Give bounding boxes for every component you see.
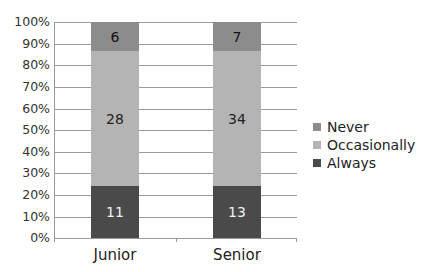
legend-item-occasionally: Occasionally xyxy=(313,136,415,154)
y-tick-label: 100% xyxy=(0,15,50,29)
legend-item-never: Never xyxy=(313,118,415,136)
y-axis xyxy=(54,22,55,239)
segment-always: 13 xyxy=(213,186,261,238)
segment-occasionally: 34 xyxy=(213,51,261,186)
x-tick-mark xyxy=(296,238,297,242)
y-tick-label: 40% xyxy=(0,145,50,159)
y-tick-label: 10% xyxy=(0,210,50,224)
y-tick-label: 30% xyxy=(0,166,50,180)
y-tick-label: 90% xyxy=(0,37,50,51)
x-tick-mark xyxy=(54,238,55,242)
bar-senior: 7 34 13 xyxy=(213,22,261,238)
y-tick-label: 60% xyxy=(0,102,50,116)
segment-occasionally: 28 xyxy=(91,51,139,186)
y-tick-label: 70% xyxy=(0,80,50,94)
legend-label: Always xyxy=(327,155,376,171)
segment-always: 11 xyxy=(91,186,139,238)
y-tick-label: 80% xyxy=(0,58,50,72)
legend-swatch xyxy=(313,123,321,131)
bar-junior: 6 28 11 xyxy=(91,22,139,238)
x-tick-mark xyxy=(176,238,177,242)
x-label-senior: Senior xyxy=(192,246,282,264)
legend: Never Occasionally Always xyxy=(313,118,415,172)
legend-label: Never xyxy=(327,119,369,135)
segment-never: 7 xyxy=(213,22,261,51)
segment-never: 6 xyxy=(91,22,139,51)
legend-swatch xyxy=(313,141,321,149)
x-label-junior: Junior xyxy=(70,246,160,264)
y-tick-label: 0% xyxy=(0,231,50,245)
y-tick-label: 20% xyxy=(0,188,50,202)
stacked-bar-chart: 100% 90% 80% 70% 60% 50% 40% 30% 20% 10%… xyxy=(0,0,432,272)
legend-item-always: Always xyxy=(313,154,415,172)
y-tick-label: 50% xyxy=(0,123,50,137)
legend-label: Occasionally xyxy=(327,137,415,153)
legend-swatch xyxy=(313,159,321,167)
